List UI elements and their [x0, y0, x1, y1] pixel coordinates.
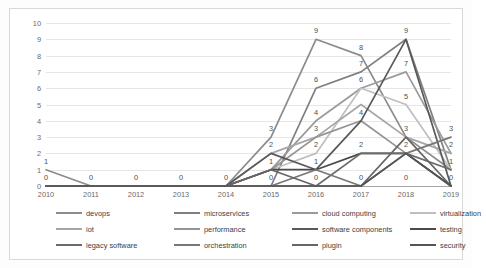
- legend-label: iot: [86, 225, 94, 234]
- legend-swatch-icon: [174, 212, 200, 214]
- plot-area: 012345678910 201020112012201320142015201…: [46, 23, 451, 186]
- legend-label: devops: [86, 209, 110, 218]
- legend-swatch-icon: [56, 212, 82, 214]
- y-tick-label: 8: [37, 51, 41, 60]
- legend-item[interactable]: cloud computing: [292, 209, 410, 218]
- chart-legend: devopsmicroservicescloud computingvirtua…: [56, 205, 456, 255]
- legend-item[interactable]: testing: [410, 225, 486, 234]
- y-tick-label: 3: [37, 133, 41, 142]
- legend-swatch-icon: [410, 244, 436, 246]
- y-tick-label: 2: [37, 149, 41, 158]
- y-tick-label: 9: [37, 35, 41, 44]
- legend-label: plugin: [322, 241, 342, 250]
- y-tick-label: 6: [37, 84, 41, 93]
- legend-item[interactable]: microservices: [174, 209, 292, 218]
- y-tick-label: 1: [37, 165, 41, 174]
- x-tick-label: 2014: [218, 190, 234, 199]
- legend-item[interactable]: virtualization: [410, 209, 486, 218]
- chart-plot-frame: 012345678910 201020112012201320142015201…: [9, 8, 463, 260]
- legend-label: microservices: [204, 209, 249, 218]
- legend-label: cloud computing: [322, 209, 376, 218]
- legend-swatch-icon: [56, 228, 82, 230]
- y-tick-label: 7: [37, 67, 41, 76]
- series-line: [46, 88, 451, 186]
- legend-item[interactable]: orchestration: [174, 241, 292, 250]
- legend-label: legacy software: [86, 241, 137, 250]
- legend-item[interactable]: plugin: [292, 241, 410, 250]
- y-tick-label: 4: [37, 116, 41, 125]
- legend-swatch-icon: [292, 212, 318, 214]
- x-tick-label: 2013: [173, 190, 189, 199]
- y-tick-label: 5: [37, 100, 41, 109]
- x-tick-label: 2012: [128, 190, 144, 199]
- legend-item[interactable]: legacy software: [56, 241, 174, 250]
- series-lines: [46, 23, 451, 186]
- legend-swatch-icon: [292, 228, 318, 230]
- legend-swatch-icon: [174, 244, 200, 246]
- legend-item[interactable]: security: [410, 241, 486, 250]
- legend-swatch-icon: [56, 244, 82, 246]
- x-tick-label: 2018: [398, 190, 414, 199]
- x-tick-label: 2019: [443, 190, 459, 199]
- x-tick-label: 2015: [263, 190, 279, 199]
- x-tick-label: 2016: [308, 190, 324, 199]
- legend-swatch-icon: [292, 244, 318, 246]
- series-line: [46, 105, 451, 187]
- legend-swatch-icon: [410, 212, 436, 214]
- y-tick-label: 10: [33, 19, 41, 28]
- legend-swatch-icon: [174, 228, 200, 230]
- legend-label: testing: [440, 225, 462, 234]
- legend-label: security: [440, 241, 465, 250]
- legend-item[interactable]: devops: [56, 209, 174, 218]
- legend-label: software components: [322, 225, 392, 234]
- legend-label: virtualization: [440, 209, 481, 218]
- legend-swatch-icon: [410, 228, 436, 230]
- x-tick-label: 2011: [83, 190, 99, 199]
- legend-label: orchestration: [204, 241, 247, 250]
- legend-label: performance: [204, 225, 246, 234]
- legend-item[interactable]: software components: [292, 225, 410, 234]
- legend-item[interactable]: performance: [174, 225, 292, 234]
- x-tick-label: 2017: [353, 190, 369, 199]
- legend-item[interactable]: iot: [56, 225, 174, 234]
- x-tick-label: 2010: [38, 190, 54, 199]
